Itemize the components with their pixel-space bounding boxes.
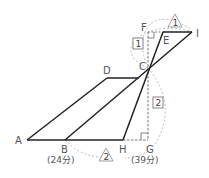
label-F: F — [141, 22, 147, 33]
label-I: I — [196, 28, 199, 39]
box-upper-label: 1 — [136, 39, 142, 49]
geometry-diagram: A B H G D C F E I (24分) (39分) 1 2 1 2 — [0, 0, 209, 178]
label-B: B — [61, 144, 68, 155]
right-angle-mark-G — [141, 133, 148, 140]
triangle-upper-label: 1 — [173, 18, 179, 28]
label-C: C — [139, 61, 146, 72]
label-A: A — [15, 135, 22, 146]
line-AD — [27, 78, 107, 140]
triangle-lower-label: 2 — [104, 152, 110, 162]
label-G: G — [146, 144, 154, 155]
label-H: H — [119, 144, 127, 155]
label-E: E — [163, 35, 169, 46]
time-label-G: (39分) — [131, 155, 158, 165]
box-lower-label: 2 — [156, 98, 162, 108]
right-angle-mark-F — [148, 32, 154, 38]
time-label-B: (24分) — [47, 155, 74, 165]
label-D: D — [103, 65, 111, 76]
